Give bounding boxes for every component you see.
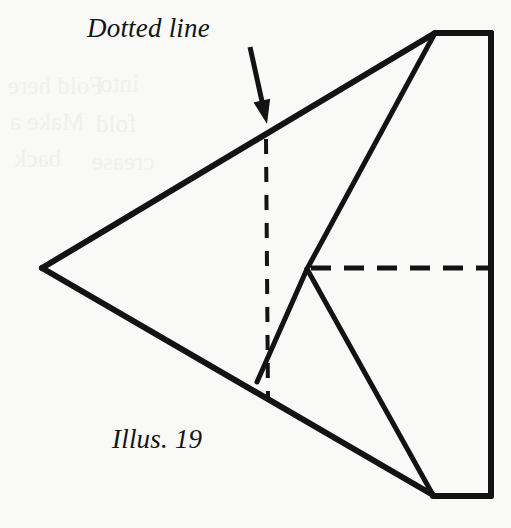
annotation-arrow-shaft <box>250 47 263 104</box>
origami-diagram <box>0 0 511 528</box>
annotation-arrow-head <box>254 99 271 124</box>
dashed-line-layer <box>266 139 488 398</box>
illustration-caption: Illus. 19 <box>112 424 202 455</box>
arrow-layer <box>250 47 270 124</box>
illustration-page: Fold hereMake abackintofoldcrease Dotted… <box>0 0 511 528</box>
dotted-line-annotation-label: Dotted line <box>87 13 210 44</box>
short-left-crease <box>257 269 307 382</box>
lower-left-fold-edge <box>42 268 433 495</box>
upper-left-fold-edge <box>42 33 435 268</box>
